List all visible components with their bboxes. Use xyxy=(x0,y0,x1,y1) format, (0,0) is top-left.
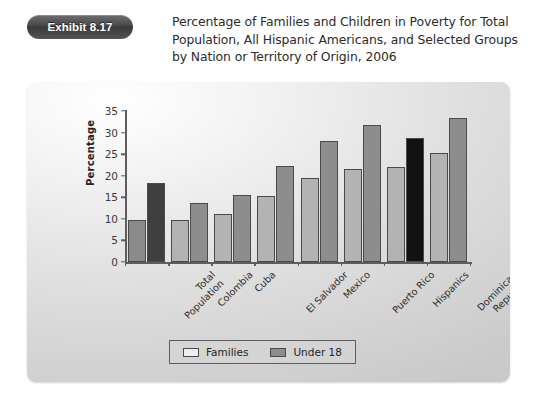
x-axis-category-label-line: Hispanics xyxy=(431,269,472,310)
bar-families-colombia xyxy=(171,220,189,262)
legend-label: Under 18 xyxy=(293,346,341,358)
bar-families-hispanics xyxy=(387,167,405,262)
exhibit-header: Exhibit 8.17 Percentage of Families and … xyxy=(0,0,535,92)
x-axis-category-label: TotalPopulation xyxy=(173,269,225,321)
chart-panel: Percentage 05101520253035TotalPopulation… xyxy=(27,82,510,382)
x-axis-category-label-line: Cuba xyxy=(252,269,278,295)
x-axis-tick-mark xyxy=(470,262,471,266)
x-axis-tick-mark xyxy=(298,262,299,266)
bar-under-18-total-population xyxy=(147,183,165,262)
legend-label: Families xyxy=(206,346,248,358)
bar-families-puerto-rico xyxy=(344,169,362,262)
y-axis-tick-mark xyxy=(121,240,125,241)
plot-area: 05101520253035TotalPopulationColombiaCub… xyxy=(125,111,470,262)
exhibit-figure: Exhibit 8.17 Percentage of Families and … xyxy=(0,0,535,403)
bar-families-mexico xyxy=(301,178,319,262)
x-axis-category-label: DominicanRepublic xyxy=(475,269,510,322)
exhibit-title: Percentage of Families and Children in P… xyxy=(172,13,518,66)
y-axis-tick-mark xyxy=(121,218,125,219)
bar-under-18-el-salvador xyxy=(276,166,294,262)
x-axis-category-label: Cuba xyxy=(252,269,278,295)
x-axis-tick-mark xyxy=(168,262,169,266)
y-axis-title: Percentage xyxy=(85,120,96,186)
x-axis-category-label: Puerto Rico xyxy=(390,269,437,316)
bar-under-18-colombia xyxy=(190,203,208,262)
x-axis-tick-mark xyxy=(384,262,385,266)
legend-swatch-families-icon xyxy=(183,348,199,357)
y-axis-tick-mark xyxy=(121,110,125,111)
exhibit-badge: Exhibit 8.17 xyxy=(27,15,133,39)
x-axis-tick-mark xyxy=(254,262,255,266)
y-axis-tick-mark xyxy=(121,175,125,176)
x-axis-tick-mark xyxy=(211,262,212,266)
y-axis-tick-mark xyxy=(121,153,125,154)
y-axis-tick-mark xyxy=(121,197,125,198)
y-axis-tick-mark xyxy=(121,132,125,133)
bar-under-18-dominican-republic xyxy=(449,118,467,262)
chart-legend: FamiliesUnder 18 xyxy=(169,340,356,364)
legend-swatch-under18-icon xyxy=(270,348,286,357)
bar-families-cuba xyxy=(214,214,232,262)
bar-under-18-cuba xyxy=(233,195,251,262)
x-axis-category-label-line: Puerto Rico xyxy=(390,269,437,316)
x-axis-tick-mark xyxy=(427,262,428,266)
bar-families-el-salvador xyxy=(257,196,275,262)
bar-under-18-mexico xyxy=(320,141,338,262)
legend-item-under18[interactable]: Under 18 xyxy=(270,346,341,358)
x-axis-tick-mark xyxy=(341,262,342,266)
x-axis-category-label: Hispanics xyxy=(431,269,472,310)
bar-under-18-hispanics xyxy=(406,138,424,262)
x-axis-tick-mark xyxy=(125,262,126,266)
bar-families-dominican-republic xyxy=(430,153,448,262)
bar-under-18-puerto-rico xyxy=(363,125,381,262)
legend-item-families[interactable]: Families xyxy=(183,346,248,358)
bar-families-total-population xyxy=(128,220,146,262)
